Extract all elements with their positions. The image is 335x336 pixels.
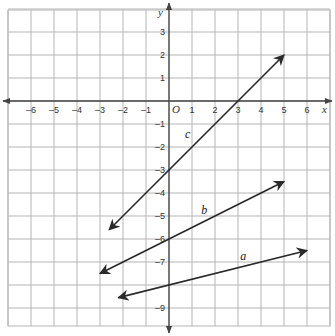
y-tick-label: 3 bbox=[160, 27, 165, 37]
x-tick-label: 4 bbox=[258, 105, 263, 115]
line-label-a: a bbox=[240, 249, 246, 263]
y-tick-label: –9 bbox=[155, 303, 165, 313]
line-c: c bbox=[109, 55, 284, 230]
y-tick-label: 1 bbox=[160, 73, 165, 83]
y-tick-label: –3 bbox=[155, 165, 165, 175]
x-tick-label: –5 bbox=[49, 105, 59, 115]
x-tick-label: –2 bbox=[118, 105, 128, 115]
x-tick-label: 1 bbox=[189, 105, 194, 115]
y-tick-label: –7 bbox=[155, 257, 165, 267]
x-tick-label: –6 bbox=[26, 105, 36, 115]
x-tick-label: –4 bbox=[72, 105, 82, 115]
x-axis-label: x bbox=[321, 103, 327, 115]
x-tick-label: 2 bbox=[212, 105, 217, 115]
x-tick-label: 3 bbox=[235, 105, 240, 115]
line-label-b: b bbox=[201, 203, 207, 217]
y-tick-label: –4 bbox=[155, 188, 165, 198]
y-tick-label: –5 bbox=[155, 211, 165, 221]
x-tick-label: –1 bbox=[141, 105, 151, 115]
x-tick-label: –3 bbox=[95, 105, 105, 115]
line-a: a bbox=[118, 249, 307, 298]
x-tick-label: 5 bbox=[281, 105, 286, 115]
y-tick-label: 2 bbox=[160, 50, 165, 60]
x-tick-label: 6 bbox=[304, 105, 309, 115]
y-tick-label: –2 bbox=[155, 142, 165, 152]
origin-label: O bbox=[172, 103, 180, 115]
line-label-c: c bbox=[185, 127, 191, 141]
y-tick-label: –1 bbox=[155, 119, 165, 129]
lines: cba bbox=[100, 55, 307, 298]
y-axis-label: y bbox=[157, 6, 163, 18]
coordinate-plane: xyO –6–5–4–3–2–1123456321–1–2–3–4–5–6–7–… bbox=[0, 0, 335, 336]
axes: xyO bbox=[3, 3, 332, 333]
